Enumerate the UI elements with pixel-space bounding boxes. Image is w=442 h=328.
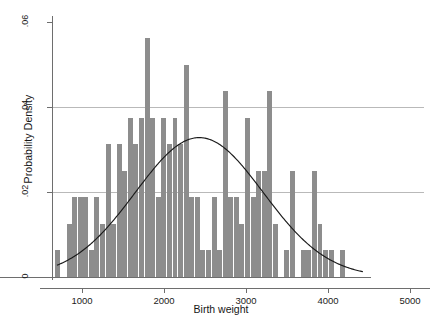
figure-container: Probability Density Birth weight 0.02.04…	[0, 0, 442, 328]
x-tick-label: 4000	[306, 295, 350, 306]
density-curve	[0, 0, 442, 290]
x-tick-label: 1000	[60, 295, 104, 306]
x-tick-label: 3000	[224, 295, 268, 306]
x-tick-label: 5000	[388, 295, 432, 306]
x-tick-label: 2000	[142, 295, 186, 306]
